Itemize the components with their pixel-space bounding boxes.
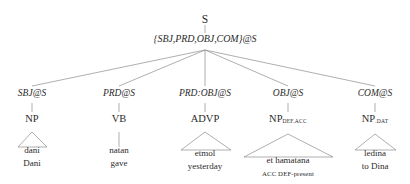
category-text: NP xyxy=(25,113,38,124)
edge-featureset-to-prd xyxy=(119,50,205,86)
category-label-np-obj: NPDEF.ACC xyxy=(269,113,307,125)
leaf-word-prd-obj: etmol xyxy=(195,149,216,158)
leaf-word-sbj: dani xyxy=(24,146,40,155)
category-label-vb: VB xyxy=(112,113,127,125)
leaf-gloss-sbj: Dani xyxy=(23,159,41,168)
leaf-gloss-com: to Dina xyxy=(362,162,389,171)
triangle-obj xyxy=(244,134,333,157)
category-text: NP xyxy=(269,113,282,124)
leaf-word-obj: et hamatana xyxy=(266,156,309,165)
category-text: VB xyxy=(112,113,127,124)
root-node-label: S xyxy=(202,13,208,25)
function-label-prd-obj: PRD:OBJ@S xyxy=(179,89,231,99)
function-label-sbj: SBJ@S xyxy=(18,89,46,99)
edge-featureset-to-sbj xyxy=(32,50,205,86)
feature-set-label: {SBJ,PRD,OBJ,COM}@S xyxy=(154,34,257,45)
edge-featureset-to-com xyxy=(205,50,375,86)
category-text: NP xyxy=(362,113,375,124)
category-label-np-com: NP.DAT xyxy=(362,113,389,125)
edge-featureset-to-obj xyxy=(205,50,288,86)
function-label-prd: PRD@S xyxy=(103,89,135,99)
leaf-word-com: ledina xyxy=(364,149,386,158)
function-label-obj: OBJ@S xyxy=(273,89,303,99)
syntax-tree-diagram: S {SBJ,PRD,OBJ,COM}@S SBJ@S NP dani Dani… xyxy=(0,0,410,184)
category-subscript: .DAT xyxy=(375,118,388,124)
leaf-gloss-prd-obj: yesterday xyxy=(188,162,222,171)
leaf-word-prd: natan xyxy=(109,146,129,155)
category-label-np-sbj: NP xyxy=(25,113,38,125)
category-label-advp: ADVP xyxy=(191,113,220,125)
function-label-com: COM@S xyxy=(358,89,393,99)
category-text: ADVP xyxy=(191,113,220,124)
category-subscript: DEF.ACC xyxy=(283,118,307,124)
leaf-gloss-prd: gave xyxy=(111,159,128,168)
leaf-gloss-obj: ACC DEF-present xyxy=(262,170,314,177)
